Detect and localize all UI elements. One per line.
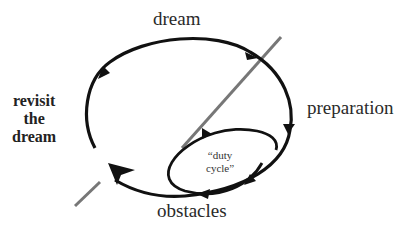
label-preparation: preparation <box>307 97 394 119</box>
arrow-revisit-large-icon <box>108 163 135 185</box>
label-duty-cycle: “duty cycle” <box>206 149 234 175</box>
arrow-inner-top-icon <box>202 128 212 139</box>
label-revisit-the-dream: revisit the dream <box>12 92 56 146</box>
label-revisit-line2: the <box>12 110 56 128</box>
label-revisit-line1: revisit <box>12 92 56 110</box>
arrow-right-down-icon <box>283 124 295 134</box>
label-dream: dream <box>153 8 200 30</box>
label-duty-line2: cycle” <box>206 162 234 175</box>
label-revisit-line3: dream <box>12 128 56 146</box>
diagonal-divider-line-lower <box>75 182 100 206</box>
label-duty-line1: “duty <box>206 149 234 162</box>
diagonal-divider-line <box>182 37 281 148</box>
arrow-bottom-icon <box>197 189 210 199</box>
label-obstacles: obstacles <box>157 200 227 222</box>
